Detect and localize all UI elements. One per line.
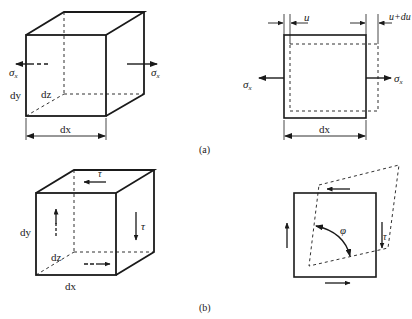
- tau-right-label: τ: [141, 221, 145, 232]
- dy-label: dy: [10, 90, 21, 101]
- caption-a: (a): [199, 145, 210, 155]
- panel-a-deformation: [259, 14, 392, 140]
- dx-label-2: dx: [319, 124, 330, 135]
- sigma-x-right-label: σx: [151, 67, 160, 80]
- stress-strain-figure: σx σx dy dz dx u u+du σx σx dx (a) τ τ d…: [0, 0, 412, 319]
- tau-top-label: τ: [98, 169, 102, 179]
- sigma-x-left-label: σx: [9, 67, 18, 80]
- dx-label-b: dx: [65, 281, 76, 292]
- u-label: u: [304, 12, 310, 23]
- tau-label-b: τ: [383, 232, 387, 242]
- figure-drawing: [0, 0, 412, 319]
- phi-label: φ: [340, 225, 346, 236]
- sigma-x-left-label-2: σx: [243, 79, 252, 92]
- dx-label: dx: [60, 124, 71, 135]
- dz-label-b: dz: [51, 252, 61, 263]
- caption-b: (b): [199, 303, 211, 313]
- u-plus-du-label: u+du: [389, 12, 411, 22]
- dy-label-b: dy: [20, 227, 31, 238]
- panel-a-cube: [16, 12, 157, 140]
- dz-label: dz: [41, 89, 51, 100]
- sigma-x-right-label-2: σx: [394, 73, 403, 86]
